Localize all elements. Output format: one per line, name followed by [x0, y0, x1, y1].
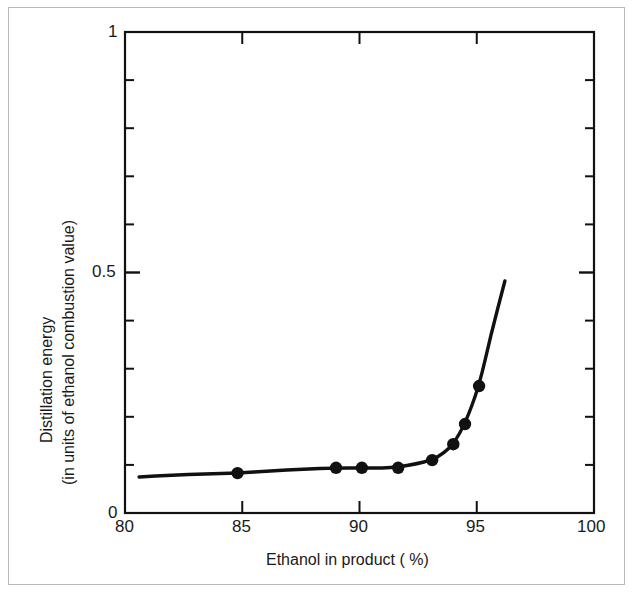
- y-axis-title-line-1: Distillation energy: [38, 317, 56, 443]
- data-point: [231, 467, 243, 479]
- data-point: [426, 454, 438, 466]
- y-axis-title-line-2: (in units of ethanol combustion value): [60, 220, 78, 485]
- plot-frame: [125, 32, 594, 513]
- y-axis-ticks: [125, 80, 140, 465]
- x-axis-ticks-top: [242, 32, 477, 44]
- data-point: [330, 462, 342, 474]
- chart-figure: 1 0.5 0 80 85 90 95 100 Distillation ene…: [0, 0, 635, 595]
- data-point: [473, 380, 485, 392]
- data-point: [459, 418, 471, 430]
- x-axis-title: Ethanol in product ( %): [266, 551, 429, 569]
- data-point: [356, 462, 368, 474]
- y-axis-ticks-right: [579, 80, 594, 465]
- data-point: [447, 438, 459, 450]
- data-point-markers: [231, 380, 485, 479]
- x-tick-label-90: 90: [349, 517, 368, 537]
- x-tick-label-100: 100: [577, 517, 605, 537]
- x-tick-label-95: 95: [466, 517, 485, 537]
- x-tick-label-80: 80: [115, 517, 134, 537]
- data-point: [392, 462, 404, 474]
- y-axis-title: Distillation energy (in units of ethanol…: [0, 0, 120, 520]
- x-axis-ticks: [242, 501, 477, 513]
- x-tick-label-85: 85: [232, 517, 251, 537]
